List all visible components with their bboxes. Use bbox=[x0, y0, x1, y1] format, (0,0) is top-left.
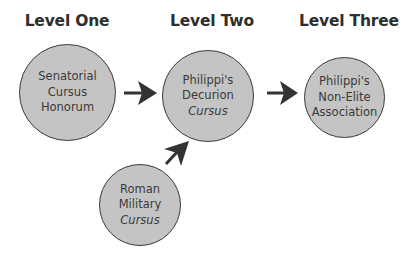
node-line: Cursus bbox=[120, 213, 159, 229]
node-philippi-decurion-cursus: Philippi's Decurion Cursus bbox=[162, 50, 254, 142]
node-line: Senatorial bbox=[38, 69, 96, 85]
arrow-icon bbox=[124, 81, 157, 105]
arrow-icon bbox=[164, 141, 189, 166]
node-line: Roman bbox=[120, 182, 160, 198]
node-line: Philippi's bbox=[319, 74, 370, 90]
node-line: Association bbox=[312, 105, 377, 121]
node-line: Honorum bbox=[41, 100, 94, 116]
node-line: Decurion bbox=[182, 88, 234, 104]
node-line: Non-Elite bbox=[318, 90, 370, 106]
node-line: Philippi's bbox=[183, 73, 234, 89]
node-line: Cursus bbox=[48, 85, 87, 101]
node-senatorial-cursus-honorum: Senatorial Cursus Honorum bbox=[19, 44, 116, 141]
node-line: Cursus bbox=[188, 104, 227, 120]
arrow-icon bbox=[267, 81, 298, 105]
node-roman-military-cursus: Roman Military Cursus bbox=[99, 164, 181, 246]
node-philippi-non-elite-association: Philippi's Non-Elite Association bbox=[304, 57, 385, 138]
node-line: Military bbox=[119, 197, 162, 213]
